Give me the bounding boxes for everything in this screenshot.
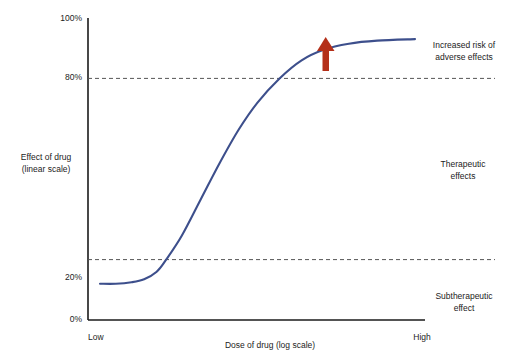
annotation-therapeutic: Therapeutic effects — [428, 158, 498, 182]
up-arrow-icon — [317, 37, 335, 71]
y-tick-label-80: 80% — [38, 72, 82, 83]
y-tick-label-0: 0% — [38, 314, 82, 325]
y-tick-label-100: 100% — [38, 13, 82, 24]
x-tick-label-low: Low — [88, 332, 128, 343]
annotation-increased-risk-line2: adverse effects — [424, 51, 504, 63]
x-tick-label-high: High — [400, 332, 444, 343]
annotation-increased-risk-line1: Increased risk of — [424, 39, 504, 51]
y-axis-title: Effect of drug (linear scale) — [8, 151, 84, 175]
annotation-subtherapeutic-line1: Subtherapeutic — [424, 290, 504, 302]
y-tick-label-20: 20% — [38, 272, 82, 283]
dose-response-chart: 100% 80% 20% 0% Effect of drug (linear s… — [0, 0, 509, 362]
annotation-subtherapeutic-line2: effect — [424, 302, 504, 314]
x-axis-title: Dose of drug (log scale) — [180, 340, 360, 351]
y-axis-title-line1: Effect of drug — [8, 151, 84, 163]
annotation-subtherapeutic: Subtherapeutic effect — [424, 290, 504, 314]
dose-response-curve — [100, 39, 415, 284]
annotation-increased-risk: Increased risk of adverse effects — [424, 39, 504, 63]
annotation-therapeutic-line2: effects — [428, 170, 498, 182]
annotation-therapeutic-line1: Therapeutic — [428, 158, 498, 170]
y-axis-title-line2: (linear scale) — [8, 163, 84, 175]
